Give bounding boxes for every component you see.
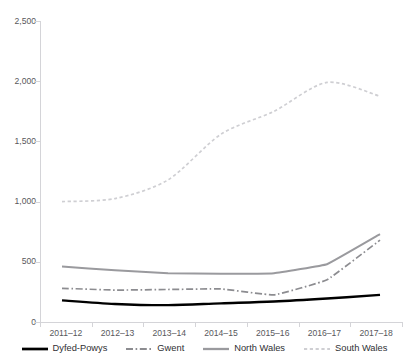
legend-item-south-wales[interactable]: South Wales	[304, 344, 387, 354]
series-line-gwent	[62, 240, 380, 295]
legend-item-dyfed-powys[interactable]: Dyfed-Powys	[22, 344, 108, 354]
legend-label: Dyfed-Powys	[53, 344, 108, 353]
legend-swatch-solid-line-icon	[22, 344, 48, 354]
legend-swatch-dotted-line-icon	[304, 344, 330, 354]
legend-swatch-dashdot-line-icon	[126, 344, 152, 354]
legend-item-gwent[interactable]: Gwent	[126, 344, 184, 354]
series-line-dyfed-powys	[62, 295, 380, 305]
series-line-south-wales	[62, 82, 380, 201]
chart-legend: Dyfed-PowysGwentNorth WalesSouth Wales	[0, 341, 409, 357]
line-chart: 05001,0001,5002,0002,500 2011–122012–132…	[0, 0, 409, 357]
legend-swatch-solid-line-icon	[203, 344, 229, 354]
legend-label: South Wales	[335, 344, 387, 353]
series-lines	[0, 0, 409, 357]
legend-label: Gwent	[157, 344, 184, 353]
series-line-north-wales	[62, 234, 380, 274]
legend-label: North Wales	[234, 344, 285, 353]
legend-item-north-wales[interactable]: North Wales	[203, 344, 285, 354]
